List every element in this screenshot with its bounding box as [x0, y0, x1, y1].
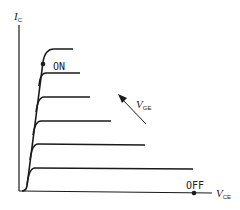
characteristic-diagram: IC VCE ON OFF VGE: [0, 0, 240, 210]
vge-arrowhead-icon: [118, 94, 127, 103]
curve-level-2: [30, 144, 145, 160]
y-axis-label: IC: [13, 10, 23, 23]
vge-label: VGE: [136, 98, 151, 111]
curve-level-5: [39, 73, 80, 86]
x-axis: [19, 191, 212, 193]
off-label: OFF: [186, 180, 204, 191]
x-axis-label: VCE: [216, 187, 231, 200]
curve-level-3: [33, 121, 111, 135]
on-point: [41, 62, 46, 67]
curve-level-1: [27, 168, 193, 185]
curve-level-4: [36, 97, 90, 112]
off-point: [192, 191, 197, 196]
on-label: ON: [53, 61, 65, 72]
